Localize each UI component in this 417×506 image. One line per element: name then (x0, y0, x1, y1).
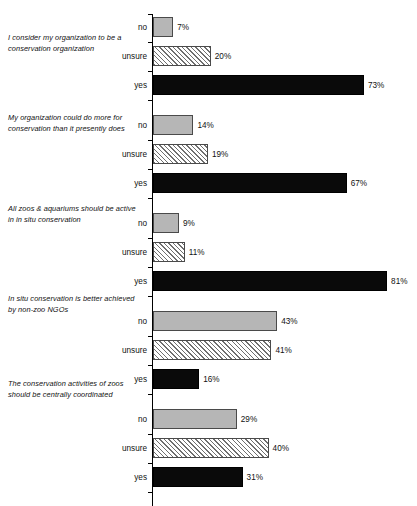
bar-unsure (153, 46, 211, 66)
bar-unsure (153, 144, 208, 164)
axis-tick (148, 169, 152, 170)
bar-no (153, 213, 179, 233)
axis-tick (148, 394, 152, 395)
category-label-no: no (138, 219, 147, 228)
bar-value-label: 11% (185, 248, 205, 257)
axis-tick (148, 365, 152, 366)
bar-yes (153, 173, 347, 193)
bar-value-label: 41% (271, 346, 291, 355)
category-label-no: no (138, 121, 147, 130)
axis-tick (148, 434, 152, 435)
axis-tick (148, 267, 152, 268)
bar-no (153, 409, 237, 429)
axis-tick (148, 238, 152, 239)
bar-value-label: 73% (364, 81, 384, 90)
axis-tick (148, 100, 152, 101)
bar-value-label: 43% (277, 317, 297, 326)
bar-value-label: 29% (237, 415, 257, 424)
bar-value-label: 67% (347, 179, 367, 188)
axis-tick (148, 14, 152, 15)
axis-tick (148, 42, 152, 43)
bar-yes (153, 271, 387, 291)
axis-tick (148, 198, 152, 199)
bar-value-label: 40% (269, 444, 289, 453)
bar-value-label: 16% (199, 375, 219, 384)
axis-tick (148, 296, 152, 297)
category-label-unsure: unsure (122, 248, 147, 257)
category-label-no: no (138, 415, 147, 424)
bar-value-label: 81% (387, 277, 407, 286)
category-label-unsure: unsure (122, 444, 147, 453)
category-label-yes: yes (134, 473, 147, 482)
question-label-3: All zoos & aquariums should be active in… (8, 203, 143, 225)
category-label-no: no (138, 23, 147, 32)
axis-tick (148, 492, 152, 493)
bar-value-label: 14% (193, 121, 213, 130)
axis-tick (148, 71, 152, 72)
bar-yes (153, 75, 364, 95)
bar-no (153, 311, 277, 331)
bar-value-label: 9% (179, 219, 195, 228)
bar-value-label: 31% (243, 473, 263, 482)
bar-yes (153, 369, 199, 389)
axis-tick (148, 336, 152, 337)
category-label-yes: yes (134, 277, 147, 286)
bar-value-label: 7% (173, 23, 189, 32)
question-label-4: In situ conservation is better achieved … (8, 293, 143, 315)
category-label-no: no (138, 317, 147, 326)
category-label-yes: yes (134, 179, 147, 188)
category-label-unsure: unsure (122, 52, 147, 61)
category-label-yes: yes (134, 375, 147, 384)
plot-area: no7%unsure20%yes73%no14%unsure19%yes67%n… (152, 14, 417, 464)
category-label-unsure: unsure (122, 346, 147, 355)
category-label-yes: yes (134, 81, 147, 90)
bar-unsure (153, 340, 271, 360)
question-label-2: My organization could do more for conser… (8, 112, 143, 134)
bar-value-label: 20% (211, 52, 231, 61)
bar-unsure (153, 242, 185, 262)
axis-tick (148, 463, 152, 464)
category-label-unsure: unsure (122, 150, 147, 159)
axis-tick (148, 140, 152, 141)
bar-yes (153, 467, 243, 487)
bar-no (153, 17, 173, 37)
bar-unsure (153, 438, 269, 458)
question-label-5: The conservation activities of zoos shou… (8, 378, 143, 400)
bar-value-label: 19% (208, 150, 228, 159)
bar-no (153, 115, 193, 135)
